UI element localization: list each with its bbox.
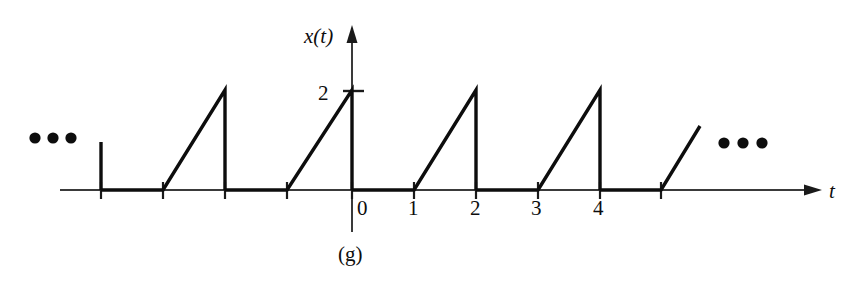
x-tick-label-2: 2 (470, 198, 481, 219)
sawtooth-waveform-figure (0, 0, 850, 282)
x-axis-arrowhead (804, 185, 822, 196)
x-axis-label: t (829, 181, 835, 202)
x-tick-label-3: 3 (531, 198, 542, 219)
x-tick-label-4: 4 (593, 198, 604, 219)
right-ellipsis (718, 137, 767, 148)
y-tick-label-2: 2 (318, 83, 329, 104)
x-tick-label-0: 0 (357, 198, 368, 219)
waveform-trace (101, 90, 700, 190)
y-axis-label: x(t) (304, 26, 333, 47)
x-axis (60, 185, 822, 196)
left-ellipsis (29, 132, 76, 143)
figure-caption: (g) (338, 244, 363, 265)
y-axis-arrowhead (347, 25, 358, 43)
x-tick-label-1: 1 (408, 198, 419, 219)
